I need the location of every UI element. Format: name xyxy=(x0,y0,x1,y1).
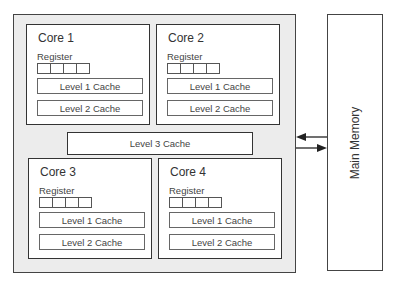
main-memory-label: Main Memory xyxy=(348,106,362,179)
arrow-right-icon xyxy=(317,144,327,152)
main-memory: Main Memory xyxy=(327,14,383,271)
arrow-left-icon xyxy=(296,133,306,141)
